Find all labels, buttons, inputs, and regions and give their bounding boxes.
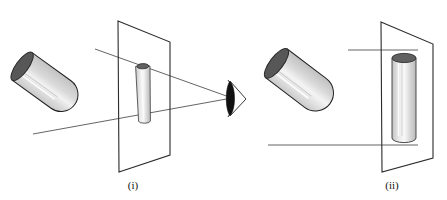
projection-figure: (i) (i xyxy=(0,0,447,200)
image-body-ii xyxy=(392,58,416,143)
projected-cylinder-image-i xyxy=(136,63,151,123)
image-top-cap-ii xyxy=(392,53,416,62)
projected-cylinder-image-ii xyxy=(392,53,416,142)
panel-ii-caption: (ii) xyxy=(385,179,399,192)
projection-diagram-canvas: (i) (i xyxy=(0,0,447,200)
image-top-cap-i xyxy=(137,63,149,69)
panel-i-caption: (i) xyxy=(128,179,139,192)
